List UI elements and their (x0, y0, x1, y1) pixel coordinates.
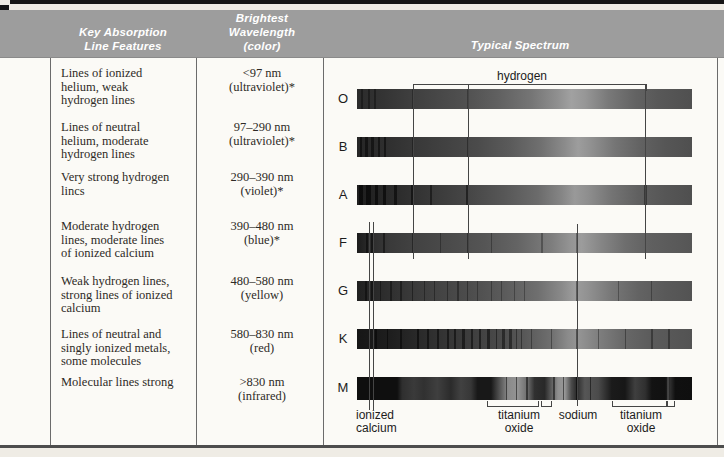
hydrogen-line-2 (468, 84, 469, 259)
wavelength-value: 390–480 nm (200, 220, 324, 234)
wavelength-color: (infrared) (200, 390, 324, 404)
wavelength-cell-M: >830 nm (infrared) (200, 376, 324, 403)
spectral-type-A: A (333, 188, 353, 201)
spectrum-bar-O (357, 89, 692, 109)
titanium-oxide-bracket-1b (541, 401, 552, 407)
wavelength-value: 290–390 nm (200, 171, 324, 185)
wavelength-value: 97–290 nm (200, 121, 324, 135)
spectral-type-M: M (333, 381, 353, 394)
spectrum-bar-B (357, 137, 692, 157)
page-top-edge (10, 0, 724, 4)
wavelength-cell-G: 480–580 nm (yellow) (200, 275, 324, 302)
header-typical-spectrum: Typical Spectrum (323, 38, 717, 52)
ionized-calcium-line-2 (373, 222, 374, 410)
features-cell-O: Lines of ionized helium, weak hydrogen l… (61, 67, 177, 108)
ionized-calcium-label: ionized calcium (356, 409, 408, 435)
spectrum-bar-A (357, 185, 692, 205)
titanium-oxide-bracket-1a (487, 401, 539, 407)
wavelength-cell-O: <97 nm (ultraviolet)* (200, 67, 324, 94)
wavelength-cell-B: 97–290 nm (ultraviolet)* (200, 121, 324, 148)
wavelength-color: (blue)* (200, 234, 324, 248)
spectrum-bar-G (357, 281, 692, 301)
spectrum-bar-K (357, 329, 692, 349)
wavelength-color: (yellow) (200, 289, 324, 303)
features-cell-A: Very strong hydrogen lincs (61, 171, 177, 198)
wavelength-cell-K: 580–830 nm (red) (200, 328, 324, 355)
spectral-type-B: B (333, 140, 353, 153)
hydrogen-label: hydrogen (482, 70, 562, 83)
wavelength-cell-F: 390–480 nm (blue)* (200, 220, 324, 247)
wavelength-color: (violet)* (200, 185, 324, 199)
wavelength-color: (ultraviolet)* (200, 135, 324, 149)
header-key-absorption-line-features: Key Absorption Line Features (73, 25, 173, 53)
wavelength-color: (ultraviolet)* (200, 81, 324, 95)
header-brightest-wavelength: Brightest Wavelength (color) (222, 11, 302, 53)
wavelength-color: (red) (200, 342, 324, 356)
spectral-classification-table-page: Key Absorption Line Features Brightest W… (0, 0, 724, 457)
features-cell-B: Lines of neutral helium, moderate hydrog… (61, 121, 177, 162)
spectral-type-F: F (333, 236, 353, 249)
table-bottom-rule (0, 445, 724, 448)
features-cell-K: Lines of neutral and singly ionized meta… (61, 328, 177, 369)
features-cell-F: Moderate hydrogen lines, moderate lines … (61, 220, 177, 261)
wavelength-value: <97 nm (200, 67, 324, 81)
hydrogen-bracket (413, 84, 647, 91)
spectrum-panel-right-border (717, 58, 718, 445)
wavelength-cell-A: 290–390 nm (violet)* (200, 171, 324, 198)
wavelength-value: >830 nm (200, 376, 324, 390)
features-cell-G: Weak hydrogen lines, strong lines of ion… (61, 275, 177, 316)
column-divider-features-wavelength (196, 58, 197, 445)
spectral-type-K: K (333, 332, 353, 345)
spectral-type-G: G (333, 284, 353, 297)
sodium-label: sodium (548, 409, 608, 422)
column-divider-left (50, 58, 51, 445)
features-cell-M: Molecular lines strong (61, 376, 177, 390)
spectral-type-O: O (333, 92, 353, 105)
ionized-calcium-line-1 (369, 222, 370, 410)
hydrogen-line-1 (413, 84, 414, 259)
titanium-oxide-label-2: titanium oxide (611, 409, 671, 435)
spectrum-bar-M (357, 377, 692, 400)
wavelength-value: 580–830 nm (200, 328, 324, 342)
hydrogen-line-3 (645, 84, 646, 259)
spectrum-bar-F (357, 233, 692, 253)
titanium-oxide-bracket-2b (667, 401, 675, 407)
wavelength-value: 480–580 nm (200, 275, 324, 289)
titanium-oxide-label-1: titanium oxide (489, 409, 549, 435)
titanium-oxide-bracket-2a (612, 401, 667, 407)
sodium-line (577, 224, 578, 406)
